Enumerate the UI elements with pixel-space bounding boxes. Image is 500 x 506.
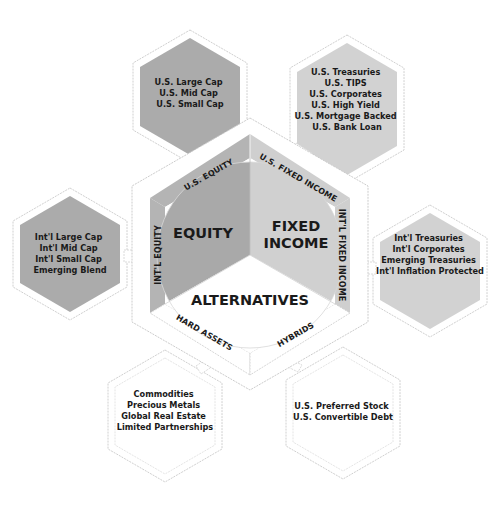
- satellite-item: U.S. Preferred Stock: [294, 401, 389, 411]
- satellite-item: U.S. Corporates: [309, 89, 382, 99]
- satellite-hybrids: U.S. Preferred Stock U.S. Convertible De…: [286, 347, 400, 479]
- satellite-intl-equity: Int'l Large Cap Int'l Mid Cap Int'l Smal…: [13, 188, 127, 320]
- svg-text:U.S. Large Cap U.S. Mid: U.S. Large Cap U.S. Mid Cap U.S. Small C…: [155, 77, 226, 109]
- svg-text:U.S. Preferred Stock U.S: U.S. Preferred Stock U.S. Convertible De…: [293, 401, 393, 422]
- satellite-item: Commodities: [134, 389, 194, 399]
- satellite-item: Int'l Corporates: [393, 244, 465, 254]
- satellite-intl-fixed-income: Int'l Treasuries Int'l Corporates Emergi…: [373, 205, 487, 337]
- satellite-item: Int'l Treasuries: [394, 233, 463, 243]
- satellite-item: Int'l Small Cap: [35, 254, 102, 264]
- satellite-item: U.S. Convertible Debt: [293, 412, 393, 422]
- band-label-intl-equity: INT'L EQUITY: [154, 225, 163, 285]
- core-label-equity: EQUITY: [173, 225, 233, 241]
- svg-text:Int'l Large Cap Int'l Mi: Int'l Large Cap Int'l Mid Cap Int'l Smal…: [33, 232, 106, 275]
- satellite-item: U.S. Mid Cap: [159, 88, 218, 98]
- satellite-item: Global Real Estate: [121, 411, 206, 421]
- satellite-item: Int'l Large Cap: [35, 232, 103, 242]
- satellite-item: U.S. Mortgage Backed: [294, 111, 396, 121]
- satellite-item: U.S. Large Cap: [155, 77, 223, 87]
- satellite-item: Int'l Mid Cap: [40, 243, 98, 253]
- satellite-item: U.S. Treasuries: [311, 67, 381, 77]
- satellite-item: Precious Metals: [127, 400, 200, 410]
- satellite-item: U.S. TIPS: [324, 78, 366, 88]
- satellite-item: U.S. Small Cap: [156, 99, 224, 109]
- satellite-item: Emerging Treasuries: [381, 255, 476, 265]
- satellite-item: U.S. Bank Loan: [312, 122, 382, 132]
- core-label-alternatives: ALTERNATIVES: [191, 292, 309, 308]
- band-label-intl-fixed-income: INT'L FIXED INCOME: [337, 209, 346, 302]
- satellite-item: Emerging Blend: [33, 265, 106, 275]
- satellite-item: U.S. High Yield: [311, 100, 380, 110]
- asset-class-hexagon-diagram: U.S. Large Cap U.S. Mid Cap U.S. Small C…: [0, 0, 500, 506]
- core-label-fixed-line1: FIXED: [272, 218, 320, 234]
- satellite-item: Int'l Inflation Protected: [376, 266, 484, 276]
- satellite-item: Limited Partnerships: [117, 422, 214, 432]
- core-label-fixed-line2: INCOME: [264, 235, 329, 251]
